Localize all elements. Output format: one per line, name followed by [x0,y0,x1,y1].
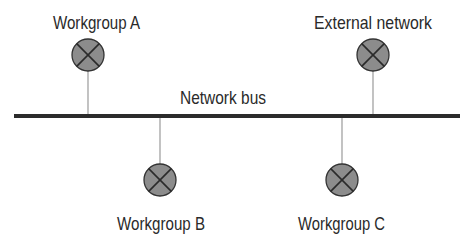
network-bus-label: Network bus [180,87,266,108]
node-label-workgroup-c: Workgroup C [298,213,385,234]
nodes: Workgroup AExternal networkWorkgroup BWo… [53,12,432,234]
node-external-network: External network [314,12,432,71]
node-label-workgroup-a: Workgroup A [53,12,140,33]
node-workgroup-b: Workgroup B [117,164,205,234]
node-workgroup-c: Workgroup C [298,164,385,234]
node-workgroup-a: Workgroup A [53,12,140,71]
node-label-workgroup-b: Workgroup B [117,213,205,234]
node-label-external-network: External network [314,12,432,33]
network-bus-diagram: Network bus Workgroup AExternal networkW… [0,0,474,245]
